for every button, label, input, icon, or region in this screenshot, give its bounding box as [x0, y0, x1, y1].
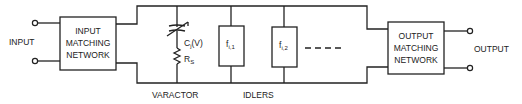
varactor-frequency-multiplier-diagram: INPUT INPUT MATCHING NETWORK Cj(V) RS VA…	[0, 0, 522, 104]
capacitor-plate-bottom	[169, 30, 185, 31]
top-rail	[116, 6, 388, 29]
idlers-caption: IDLERS	[243, 90, 274, 100]
varactor-caption: VARACTOR	[152, 90, 198, 100]
input-network-line-3: NETWORK	[66, 50, 110, 60]
output-network-line-3: NETWORK	[394, 55, 438, 65]
output-terminal-top	[467, 28, 472, 33]
output-terminal-bottom	[467, 65, 472, 70]
resistor-icon	[174, 48, 180, 64]
input-network-line-2: MATCHING	[66, 38, 111, 48]
input-label: INPUT	[9, 37, 35, 47]
input-terminal-top	[32, 20, 37, 25]
capacitance-label: Cj(V)	[184, 38, 203, 49]
input-terminal-bottom	[32, 58, 37, 63]
resistance-label: RS	[184, 54, 194, 65]
output-network-line-2: MATCHING	[394, 43, 439, 53]
output-label: OUTPUT	[474, 44, 509, 54]
output-network-line-1: OUTPUT	[399, 31, 434, 41]
bottom-rail	[116, 63, 388, 83]
input-network-line-1: INPUT	[75, 26, 101, 36]
